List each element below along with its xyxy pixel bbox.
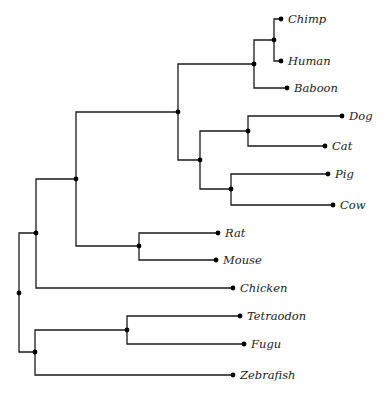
branch-edge	[19, 293, 35, 352]
branch-edge	[274, 40, 281, 61]
branch-edge	[200, 160, 231, 189]
leaf-node-dot	[279, 17, 284, 22]
branch-edge	[35, 330, 127, 352]
leaf-label-baboon: Baboon	[293, 81, 338, 95]
leaf-node-dot	[279, 59, 284, 64]
internal-node-dot	[34, 231, 39, 236]
leaf-node-dot	[216, 231, 221, 236]
branch-edge	[248, 131, 325, 146]
internal-node-dot	[137, 244, 142, 249]
branch-edge	[248, 116, 342, 131]
branch-edge	[139, 233, 218, 246]
branch-edge	[76, 112, 178, 179]
internal-node-dot	[74, 177, 79, 182]
leaf-label-fugu: Fugu	[250, 337, 281, 351]
branch-edge	[35, 352, 233, 375]
branch-edge	[19, 233, 36, 293]
leaf-label-dog: Dog	[348, 109, 373, 123]
leaf-node-dot	[238, 314, 243, 319]
leaf-node-dot	[242, 342, 247, 347]
leaf-node-dot	[285, 86, 290, 91]
branch-edge	[127, 316, 240, 330]
leaf-node-dot	[231, 286, 236, 291]
leaf-label-cat: Cat	[332, 139, 353, 153]
leaf-label-mouse: Mouse	[222, 253, 262, 267]
branch-edge	[231, 189, 333, 205]
branch-edge	[200, 131, 248, 160]
internal-node-dot	[246, 129, 251, 134]
internal-node-dot	[198, 158, 203, 163]
branch-edge	[36, 179, 76, 233]
branch-edge	[76, 179, 139, 246]
internal-node-dot	[17, 291, 22, 296]
internal-node-dot	[229, 187, 234, 192]
internal-node-dot	[176, 110, 181, 115]
internal-node-dot	[252, 62, 257, 67]
leaf-label-human: Human	[287, 54, 331, 68]
branch-edge	[139, 246, 216, 260]
leaf-label-rat: Rat	[224, 226, 246, 240]
branch-edge	[178, 64, 254, 112]
branch-edge	[231, 174, 328, 189]
leaf-label-cow: Cow	[340, 198, 366, 212]
leaf-node-dot	[331, 203, 336, 208]
internal-node-dot	[272, 38, 277, 43]
leaf-node-dot	[340, 114, 345, 119]
leaf-label-zebrafish: Zebrafish	[239, 368, 296, 382]
leaf-nodes: ChimpHumanBaboonDogCatPigCowRatMouseChic…	[214, 12, 373, 382]
internal-nodes	[17, 38, 277, 355]
leaf-node-dot	[323, 144, 328, 149]
leaf-label-pig: Pig	[334, 167, 354, 181]
leaf-label-tetraodon: Tetraodon	[247, 309, 306, 323]
leaf-label-chicken: Chicken	[240, 281, 288, 295]
leaf-node-dot	[231, 373, 236, 378]
internal-node-dot	[33, 350, 38, 355]
branch-edge	[274, 19, 281, 40]
phylogenetic-tree: ChimpHumanBaboonDogCatPigCowRatMouseChic…	[0, 0, 388, 394]
leaf-node-dot	[326, 172, 331, 177]
branch-edge	[254, 64, 287, 88]
leaf-label-chimp: Chimp	[288, 12, 327, 26]
branch-edge	[254, 40, 274, 64]
internal-node-dot	[125, 328, 130, 333]
branch-edge	[178, 112, 200, 160]
leaf-node-dot	[214, 258, 219, 263]
branch-edge	[127, 330, 244, 344]
